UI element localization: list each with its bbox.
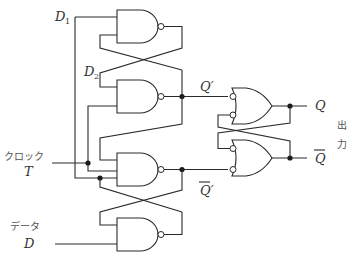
- label-data-d: D: [23, 236, 35, 251]
- label-q-prime: Q′: [200, 79, 214, 94]
- label-d1-sub: 1: [65, 17, 70, 26]
- wire-nand2-in2: [88, 106, 117, 163]
- label-q: Q: [315, 98, 326, 113]
- wire-clock: [52, 163, 117, 171]
- or-gate-inverted-bottom: [230, 140, 272, 176]
- nand-gate-4: [117, 218, 164, 251]
- label-d2-sub: 2: [94, 72, 99, 81]
- nand-gate-3: [117, 153, 164, 186]
- label-data-jp: データ: [10, 220, 40, 232]
- junction-clock: [85, 160, 90, 165]
- label-clock-jp: クロック: [4, 151, 44, 162]
- label-clock-t: T: [24, 164, 34, 179]
- label-qbar: Q: [315, 151, 326, 166]
- wire-d1-vertical: [75, 17, 117, 178]
- or-gate-inverted-top: [230, 88, 272, 124]
- nand-gate-1: [117, 10, 164, 43]
- nand-gate-2: [117, 80, 164, 113]
- label-qbar-prime: Q′: [200, 183, 214, 198]
- wire-nand4-out: [164, 212, 182, 235]
- circuit-diagram: D 1 D 2 クロック T データ D Q′ Q′ Q Q 出 力: [0, 0, 352, 262]
- circuit-svg: D 1 D 2 クロック T データ D Q′ Q′ Q Q 出 力: [0, 0, 352, 262]
- label-output-jp-2: 力: [337, 138, 347, 150]
- label-output-jp-1: 出: [337, 119, 347, 131]
